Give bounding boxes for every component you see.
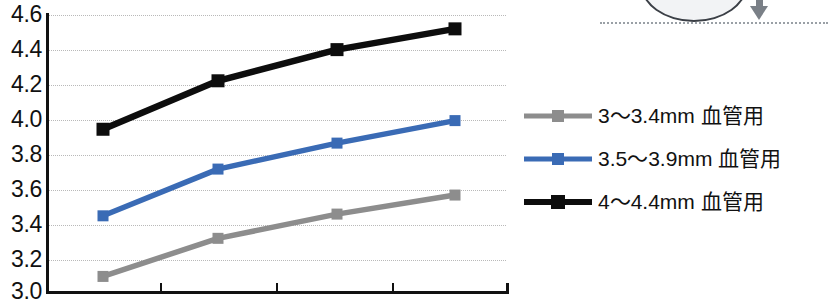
data-point-marker [98,271,109,282]
data-point-marker [332,209,343,220]
data-point-marker [213,233,224,244]
down-arrow-icon [750,0,768,22]
legend-item-black: 4〜4.4mm 血管用 [524,180,824,223]
data-point-marker [450,115,461,126]
legend: 3〜3.4mm 血管用 3.5〜3.9mm 血管用 4〜4.4mm 血管用 [524,94,824,223]
legend-label: 4〜4.4mm 血管用 [598,191,764,212]
data-point-marker [98,210,109,221]
legend-marker-square [552,110,564,122]
legend-swatch-blue [524,151,592,167]
legend-label: 3.5〜3.9mm 血管用 [598,148,781,169]
data-point-marker [212,74,225,87]
dotted-reference-line [600,22,828,24]
series-line [103,29,455,129]
legend-swatch-gray [524,108,592,124]
line-chart: 4.6 4.4 4.2 4.0 3.8 3.6 3.4 3.2 3.0 [0,0,828,303]
data-point-marker [331,43,344,56]
legend-item-gray: 3〜3.4mm 血管用 [524,94,824,137]
arrow-head [750,6,768,20]
legend-item-blue: 3.5〜3.9mm 血管用 [524,137,824,180]
legend-marker-square [552,153,564,165]
legend-marker-square [551,195,565,209]
series-line [103,195,455,276]
ellipse-cross-section-icon [640,0,748,22]
data-point-marker [213,164,224,175]
legend-swatch-black [524,194,592,210]
data-point-marker [97,123,110,136]
illustration-fragment [600,0,828,26]
data-point-marker [332,138,343,149]
legend-label: 3〜3.4mm 血管用 [598,105,764,126]
data-point-marker [450,190,461,201]
data-point-marker [449,22,462,35]
